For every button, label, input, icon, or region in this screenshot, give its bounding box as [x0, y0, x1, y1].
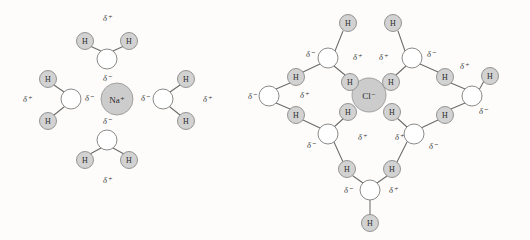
sodium-hydration-shell: H H H H H H H: [23, 13, 213, 185]
delta-negative-label: δ⁻: [307, 140, 317, 150]
oxygen-atom: [404, 124, 424, 144]
hydrogen-atom: H: [77, 152, 94, 169]
hydrogen-label: H: [293, 111, 299, 120]
delta-negative-label: δ⁻: [429, 141, 439, 151]
hydrogen-label: H: [345, 108, 351, 117]
delta-positive-label: δ⁺: [23, 94, 33, 104]
hydrogen-label: H: [344, 165, 350, 174]
hydrogen-label: H: [389, 108, 395, 117]
hydrogen-atom: H: [362, 215, 379, 232]
bond-o-h: [334, 142, 343, 162]
hydrogen-label: H: [183, 117, 189, 126]
oxygen-atom: [318, 48, 338, 68]
bond-o-h: [335, 31, 343, 51]
bond-o-h: [353, 176, 363, 183]
delta-negative-label: δ⁻: [479, 106, 489, 116]
oxygen-atom: [97, 49, 117, 69]
bond-o-h: [276, 83, 290, 89]
bond-o-h: [54, 107, 64, 115]
hydrogen-atom: H: [342, 74, 359, 91]
sodium-ion: Na⁺: [101, 83, 133, 115]
oxygen-atom: [259, 86, 279, 106]
hydrogen-atom: H: [178, 71, 195, 88]
hydrogen-label: H: [367, 219, 373, 228]
bond-o-h: [334, 66, 345, 75]
oxygen-atom: [61, 89, 81, 109]
hydrogen-label: H: [126, 156, 132, 165]
bond-o-h: [276, 103, 290, 109]
delta-negative-label: δ⁻: [344, 185, 354, 195]
bond-o-h: [479, 81, 484, 90]
hydrogen-atom: H: [40, 113, 57, 130]
hydrogen-label: H: [183, 75, 189, 84]
hydrogen-label: H: [442, 73, 448, 82]
bond-o-h: [398, 31, 405, 51]
bond-o-h: [303, 64, 320, 72]
hydrogen-atom: H: [340, 104, 357, 121]
delta-positive-label: δ⁺: [395, 132, 405, 142]
hydrogen-atom: H: [40, 71, 57, 88]
delta-positive-label: δ⁺: [460, 61, 470, 71]
delta-positive-label: δ⁺: [300, 90, 310, 100]
bond-o-h: [303, 120, 320, 128]
bond-o-h: [397, 142, 407, 162]
hydrogen-atom: H: [383, 74, 400, 91]
hydrogen-label: H: [126, 37, 132, 46]
delta-positive-label: δ⁺: [379, 52, 389, 62]
hydrogen-label: H: [347, 78, 353, 87]
oxygen-atom: [402, 48, 422, 68]
hydrogen-label: H: [82, 37, 88, 46]
hydrogen-atom: H: [288, 69, 305, 86]
hydrogen-label: H: [389, 165, 395, 174]
bond-o-h: [377, 176, 387, 183]
hydrogen-label: H: [442, 111, 448, 120]
delta-positive-label: δ⁺: [203, 94, 213, 104]
hydrogen-label: H: [345, 19, 351, 28]
hydrogen-atom: H: [482, 68, 499, 85]
hydrogen-label: H: [390, 19, 396, 28]
hydrogen-atom: H: [77, 33, 94, 50]
hydrogen-label: H: [82, 156, 88, 165]
hydrogen-label: H: [293, 73, 299, 82]
delta-positive-label: δ⁺: [389, 185, 399, 195]
bond-o-h: [113, 148, 124, 154]
sodium-ion-label: Na⁺: [109, 95, 125, 105]
chloride-ion-label: Cl⁻: [362, 91, 376, 101]
bond-o-h: [334, 118, 344, 127]
hydrogen-label: H: [45, 117, 51, 126]
hydrogen-label: H: [388, 78, 394, 87]
delta-positive-label: δ⁺: [103, 13, 113, 23]
bond-o-h: [396, 66, 406, 75]
delta-negative-label: δ⁻: [141, 93, 151, 103]
hydrogen-label: H: [487, 72, 493, 81]
hydrogen-atom: H: [437, 69, 454, 86]
delta-negative-label: δ⁻: [85, 93, 95, 103]
delta-negative-label: δ⁻: [248, 91, 258, 101]
hydrogen-atom: H: [384, 104, 401, 121]
hydrogen-atom: H: [385, 15, 402, 32]
delta-positive-label: δ⁺: [353, 52, 363, 62]
hydrogen-atom: H: [121, 33, 138, 50]
oxygen-atom: [360, 180, 380, 200]
hydrogen-atom: H: [384, 161, 401, 178]
bond-o-h: [451, 83, 465, 89]
oxygen-atom: [462, 86, 482, 106]
oxygen-atom: [153, 89, 173, 109]
delta-negative-label: δ⁻: [103, 116, 113, 126]
bond-o-h: [397, 118, 407, 127]
delta-positive-label: δ⁺: [358, 132, 368, 142]
delta-negative-label: δ⁻: [103, 73, 113, 83]
delta-negative-label: δ⁻: [427, 49, 437, 59]
hydrogen-label: H: [45, 75, 51, 84]
hydrogen-atom: H: [121, 152, 138, 169]
hydrogen-atom: H: [437, 107, 454, 124]
bond-o-h: [170, 107, 180, 115]
bond-o-h: [451, 103, 465, 109]
delta-positive-label: δ⁺: [103, 175, 113, 185]
hydration-diagram-canvas: H H H H H H H: [0, 0, 530, 240]
bond-o-h: [54, 85, 64, 92]
hydration-figure: H H H H H H H: [0, 0, 530, 240]
hydrogen-atom: H: [178, 113, 195, 130]
oxygen-atom: [97, 130, 117, 150]
bond-o-h: [170, 85, 180, 92]
